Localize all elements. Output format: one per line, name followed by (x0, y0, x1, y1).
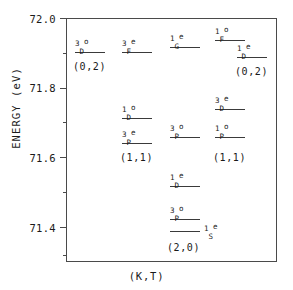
level-label-c3-r0: 1Fo (215, 27, 229, 42)
y-axis-title: ENERGY (eV) (10, 48, 22, 168)
level-label-c2-r3: 3Po (170, 206, 184, 221)
group-label-c1: (1,1) (120, 152, 153, 163)
level-label-c0-r0: 3Do (75, 39, 89, 54)
level-label-c4-r0: 1De (237, 44, 251, 59)
y-tick-label-71-6: 71.6 (8, 152, 56, 164)
y-tick-label-72-0: 72.0 (8, 13, 56, 25)
level-label-c3-r1: 3De (215, 96, 229, 111)
y-tick-label-71-8: 71.8 (8, 82, 56, 94)
group-label-c4: (0,2) (235, 66, 268, 77)
x-axis-title: (K,T) (0, 270, 293, 282)
group-label-c3: (1,1) (213, 152, 246, 163)
level-label-c2-r1: 3Po (170, 124, 184, 139)
y-tick-label-71-4: 71.4 (8, 222, 56, 234)
level-label-c1-r2: 3Pe (122, 130, 136, 145)
level-label-c2-r0: 1Ge (170, 34, 184, 49)
level-label-c1-r0: 3Fe (122, 39, 136, 54)
level-label-c2-r2: 1De (170, 173, 184, 188)
group-label-c2: (2,0) (167, 242, 200, 253)
level-label-c1-r1: 1Do (122, 105, 136, 120)
group-label-c0: (0,2) (73, 61, 106, 72)
plot-frame: 3Do (0,2) 3Fe 1Do 3Pe (1,1) 1Ge 3Po 1De … (66, 18, 277, 262)
level-line-c2-r4 (170, 231, 200, 232)
level-label-c3-r2: 1Po (215, 124, 229, 139)
level-label-c2-r4: 1Se (204, 224, 218, 239)
energy-level-diagram: ENERGY (eV) 72.0 71.8 71.6 71.4 3Do (0,2… (0, 0, 293, 290)
